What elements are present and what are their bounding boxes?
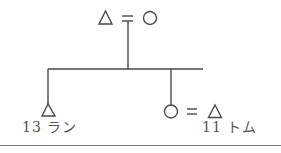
mother-circle-icon — [144, 12, 157, 25]
spouse-triangle-icon — [209, 105, 222, 118]
child1-triangle-icon — [42, 104, 55, 116]
child2-marriage-equals-icon — [187, 109, 197, 114]
spouse-label: 11 トム — [202, 119, 257, 135]
father-triangle-icon — [99, 11, 112, 24]
parents-marriage-equals-icon — [122, 16, 133, 21]
child1-label: 13 ラン — [22, 119, 77, 135]
child2-circle-icon — [165, 105, 178, 118]
